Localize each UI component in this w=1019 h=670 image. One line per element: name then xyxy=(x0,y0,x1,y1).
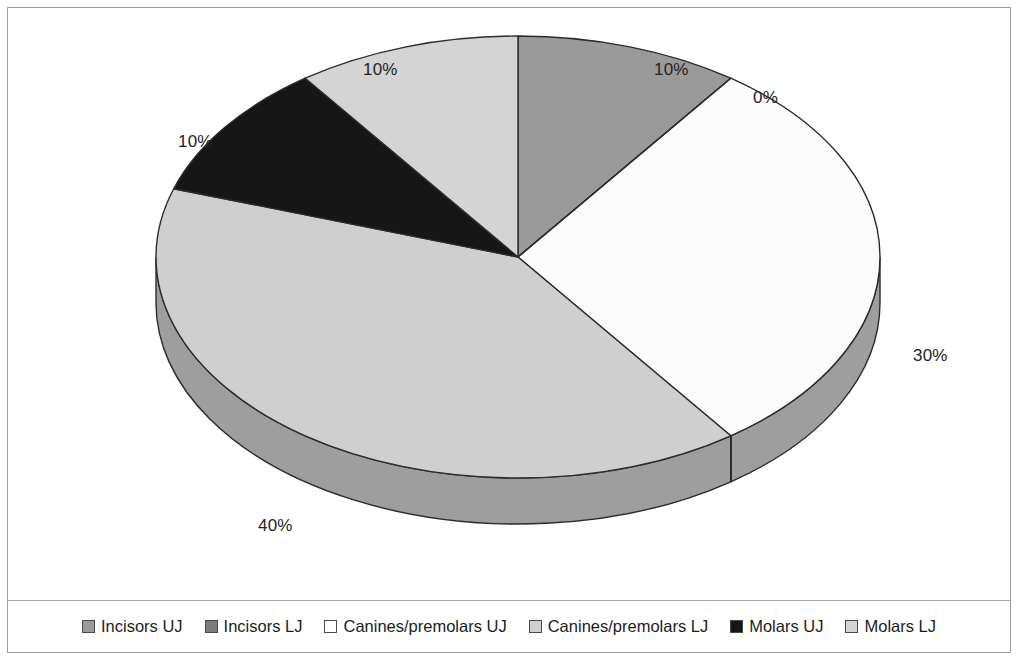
legend-label: Incisors LJ xyxy=(224,617,303,636)
pie-chart-svg xyxy=(8,8,1010,600)
legend-item-0[interactable]: Incisors UJ xyxy=(82,617,183,636)
pct-label-incisors-lj: 0% xyxy=(753,88,778,108)
legend-item-3[interactable]: Canines/premolars LJ xyxy=(529,617,709,636)
legend-label: Canines/premolars LJ xyxy=(548,617,709,636)
chart-frame: 10%0%30%40%10%10% Incisors UJIncisors LJ… xyxy=(7,7,1011,653)
legend-swatch-icon xyxy=(529,620,542,633)
legend-label: Incisors UJ xyxy=(101,617,183,636)
pct-label-incisors-uj: 10% xyxy=(654,60,689,80)
legend-swatch-icon xyxy=(205,620,218,633)
pct-label-canines-premolars-uj: 30% xyxy=(913,346,948,366)
pct-label-molars-uj: 10% xyxy=(178,132,213,152)
chart-legend: Incisors UJIncisors LJCanines/premolars … xyxy=(8,601,1010,652)
legend-swatch-icon xyxy=(82,620,95,633)
legend-label: Molars LJ xyxy=(864,617,936,636)
legend-item-4[interactable]: Molars UJ xyxy=(730,617,823,636)
legend-swatch-icon xyxy=(324,620,337,633)
pct-label-molars-lj: 10% xyxy=(363,60,398,80)
legend-item-1[interactable]: Incisors LJ xyxy=(205,617,303,636)
legend-swatch-icon xyxy=(845,620,858,633)
legend-label: Molars UJ xyxy=(749,617,823,636)
legend-label: Canines/premolars UJ xyxy=(343,617,506,636)
legend-swatch-icon xyxy=(730,620,743,633)
pct-label-canines-premolars-lj: 40% xyxy=(258,516,293,536)
legend-item-2[interactable]: Canines/premolars UJ xyxy=(324,617,506,636)
pie-chart-plot-area: 10%0%30%40%10%10% xyxy=(8,8,1010,600)
legend-item-5[interactable]: Molars LJ xyxy=(845,617,936,636)
